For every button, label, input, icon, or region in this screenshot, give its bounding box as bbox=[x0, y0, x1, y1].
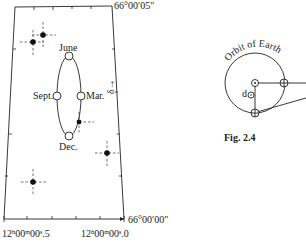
star-dot bbox=[30, 39, 36, 45]
orbit-title: Orbit of Earth bbox=[222, 38, 284, 63]
left-ticks bbox=[5, 49, 16, 176]
june-label: June bbox=[59, 43, 77, 53]
figure-caption: Fig. 2.4 bbox=[224, 132, 255, 143]
chart-frame bbox=[4, 6, 124, 219]
star-dot bbox=[77, 120, 82, 125]
sept-label: Sept. bbox=[33, 91, 53, 101]
dec-label: Dec. bbox=[59, 142, 78, 152]
orbit-diagram bbox=[225, 53, 306, 117]
ra-axis-arrow-icon bbox=[120, 217, 124, 221]
mar-label: Mar. bbox=[86, 91, 105, 101]
parallax-chart: Orbit of Earth bbox=[0, 0, 306, 242]
dec-arrow-label: δ→ bbox=[106, 79, 116, 94]
distance-label: d bbox=[242, 89, 247, 99]
star-dot bbox=[104, 150, 110, 156]
ra-right-label: 12ʰ00ᵐ00ˢ.0 bbox=[81, 229, 129, 239]
star-dot bbox=[30, 179, 36, 185]
star-dot bbox=[40, 32, 46, 38]
dec-top-label: 66°00′05″ bbox=[114, 1, 154, 11]
ra-left-label: 12ʰ00ᵐ00ˢ.5 bbox=[2, 229, 50, 239]
dec-bottom-label: 66°00′00″ bbox=[128, 215, 168, 225]
season-markers bbox=[53, 52, 85, 140]
